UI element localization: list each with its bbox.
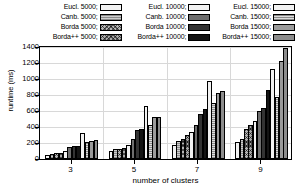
- y-tick-label: 1200: [5, 59, 39, 67]
- x-tick-label: 9: [250, 165, 270, 174]
- x-tick-label: 3: [61, 165, 81, 174]
- y-tick-label: 600: [5, 107, 39, 115]
- x-tick-mark: [71, 160, 72, 164]
- x-tick-mark: [134, 160, 135, 164]
- y-tick-label: 800: [5, 91, 39, 99]
- y-tick-label: 0: [5, 155, 39, 163]
- x-axis-title: number of clusters: [39, 176, 292, 185]
- x-tick-mark: [197, 160, 198, 164]
- bar-chart: runtime (ms) 0200400600800100012001400 n…: [0, 0, 296, 189]
- bar: [94, 140, 99, 159]
- y-tick-label: 400: [5, 123, 39, 131]
- bar: [157, 117, 162, 159]
- bar: [220, 91, 225, 159]
- bar: [283, 48, 288, 159]
- plot-area: [39, 46, 292, 160]
- y-axis: runtime (ms) 0200400600800100012001400: [0, 0, 39, 189]
- x-tick-label: 7: [187, 165, 207, 174]
- y-tick-label: 1000: [5, 75, 39, 83]
- x-tick-mark: [260, 160, 261, 164]
- bars-layer: [40, 47, 291, 159]
- y-tick-label: 200: [5, 139, 39, 147]
- y-tick-label: 1400: [5, 43, 39, 51]
- x-tick-label: 5: [124, 165, 144, 174]
